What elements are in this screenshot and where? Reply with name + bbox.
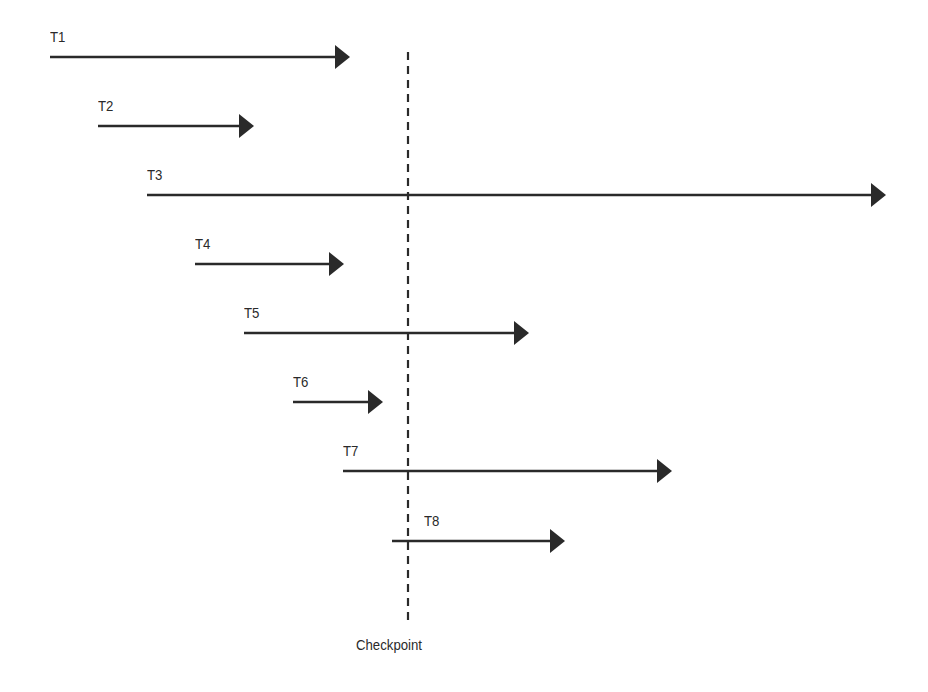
transaction-label-t1: T1 [50,28,65,45]
transaction-label-t7: T7 [343,442,358,459]
arrowhead-icon [550,529,565,553]
arrowhead-icon [335,45,350,69]
arrowhead-icon [871,183,886,207]
transaction-arrow-t2 [98,114,254,138]
transaction-label-t8: T8 [424,512,439,529]
arrowhead-icon [514,321,529,345]
transaction-timeline-diagram [0,0,928,692]
transaction-arrow-t3 [147,183,886,207]
transaction-arrow-t4 [195,252,344,276]
transaction-label-t4: T4 [195,235,210,252]
transaction-arrow-t6 [293,390,383,414]
transaction-label-t2: T2 [98,97,113,114]
transaction-arrow-t1 [50,45,350,69]
transaction-arrow-t5 [244,321,529,345]
transaction-label-t3: T3 [147,166,162,183]
transaction-arrow-t7 [343,459,672,483]
arrowhead-icon [329,252,344,276]
transaction-arrows [50,45,886,553]
arrowhead-icon [239,114,254,138]
arrowhead-icon [657,459,672,483]
checkpoint-label: Checkpoint [356,636,422,653]
transaction-arrow-t8 [392,529,565,553]
transaction-label-t6: T6 [293,373,308,390]
arrowhead-icon [368,390,383,414]
transaction-label-t5: T5 [244,304,259,321]
